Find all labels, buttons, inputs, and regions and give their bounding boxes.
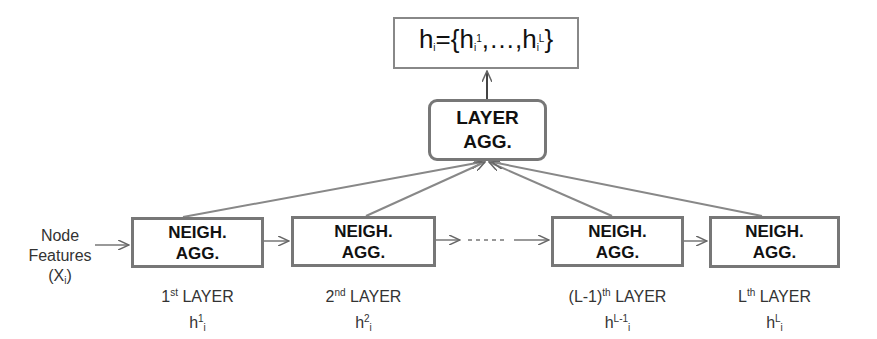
ord-sup: st <box>170 287 178 298</box>
x-close: ) <box>66 267 71 284</box>
box-line2: AGG. <box>596 242 639 263</box>
h-sub: i <box>204 322 206 333</box>
neigh-agg-box-1: NEIGH. AGG. <box>131 217 264 268</box>
input-line1: Node <box>20 226 100 246</box>
output-mid: ,…,h <box>482 24 537 54</box>
input-line3: (Xi) <box>20 266 100 291</box>
ord: 2 <box>326 288 335 305</box>
ord: 1 <box>161 288 170 305</box>
layer-label-4: Lth LAYER hLi <box>709 282 840 339</box>
neigh-agg-box-2: NEIGH. AGG. <box>291 216 436 267</box>
box-line1: NEIGH. <box>588 221 647 242</box>
neigh-agg-box-4: NEIGH. AGG. <box>709 216 840 268</box>
box-line2: AGG. <box>176 243 219 264</box>
agg-line1: LAYER <box>456 106 519 130</box>
output-h: h <box>419 24 433 54</box>
h-sub: i <box>781 322 783 333</box>
ord-sup: th <box>602 287 610 298</box>
output-end: } <box>544 24 553 54</box>
h-sub: i <box>628 322 630 333</box>
output-representation-box: hi={hi1,…,hiL} <box>393 17 579 69</box>
box-line1: NEIGH. <box>168 222 227 243</box>
h-sub: i <box>370 322 372 333</box>
node-features-label: Node Features (Xi) <box>20 226 100 291</box>
neigh-agg-box-3: NEIGH. AGG. <box>551 216 684 267</box>
box-line2: AGG. <box>753 242 796 263</box>
x-open: (X <box>48 267 64 284</box>
input-line2: Features <box>20 246 100 266</box>
layer-label-3: (L-1)th LAYER hL-1i <box>551 282 684 339</box>
ord-sup: th <box>747 287 755 298</box>
output-eq: ={h <box>436 24 474 54</box>
layer-word: LAYER <box>178 288 234 305</box>
box-line1: NEIGH. <box>745 221 804 242</box>
box-line1: NEIGH. <box>334 221 393 242</box>
layer-label-1: 1st LAYER h1i <box>131 282 264 339</box>
layer-word: LAYER <box>755 288 811 305</box>
ord-sup: nd <box>335 287 346 298</box>
box-line2: AGG. <box>342 242 385 263</box>
ord: (L-1) <box>569 288 603 305</box>
ord: L <box>738 288 747 305</box>
layer-aggregation-box: LAYER AGG. <box>428 99 547 161</box>
layer-word: LAYER <box>611 288 667 305</box>
layer-label-2: 2nd LAYER h2i <box>291 282 436 339</box>
agg-line2: AGG. <box>463 130 512 154</box>
h-sup: L-1 <box>614 313 628 324</box>
layer-word: LAYER <box>346 288 402 305</box>
